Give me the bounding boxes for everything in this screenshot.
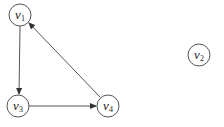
graph-canvas: v1 v2 v3 v4 — [0, 0, 224, 127]
node-v3: v3 — [7, 95, 29, 117]
node-v4: v4 — [97, 95, 119, 117]
node-v1: v1 — [9, 4, 31, 26]
edge-v1-v3 — [19, 26, 20, 94]
node-v2: v2 — [188, 44, 210, 66]
edge-v4-v1 — [29, 23, 100, 97]
